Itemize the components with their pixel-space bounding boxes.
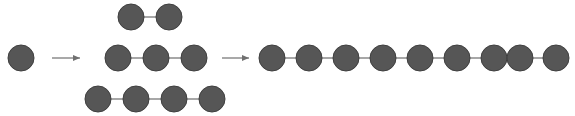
node-2-top-1	[118, 4, 144, 30]
node-3-2	[296, 45, 322, 71]
node-3-8	[507, 45, 533, 71]
diagram-figure	[0, 0, 575, 116]
node-3-3	[333, 45, 359, 71]
stage-3-long-chain	[259, 45, 569, 71]
node-1-1	[8, 45, 34, 71]
node-3-7	[481, 45, 507, 71]
node-3-9	[543, 45, 569, 71]
node-3-5	[407, 45, 433, 71]
node-2-bot-2	[123, 86, 149, 112]
node-2-mid-1	[105, 45, 131, 71]
node-2-top-2	[156, 4, 182, 30]
node-2-mid-3	[181, 45, 207, 71]
node-2-mid-2	[143, 45, 169, 71]
node-3-6	[444, 45, 470, 71]
node-2-bot-3	[161, 86, 187, 112]
node-link-diagram	[0, 0, 575, 116]
node-3-1	[259, 45, 285, 71]
node-2-bot-1	[85, 86, 111, 112]
stage-1-single-node	[8, 45, 34, 71]
node-2-bot-4	[199, 86, 225, 112]
node-3-4	[370, 45, 396, 71]
stage-2-three-chains	[85, 4, 225, 112]
